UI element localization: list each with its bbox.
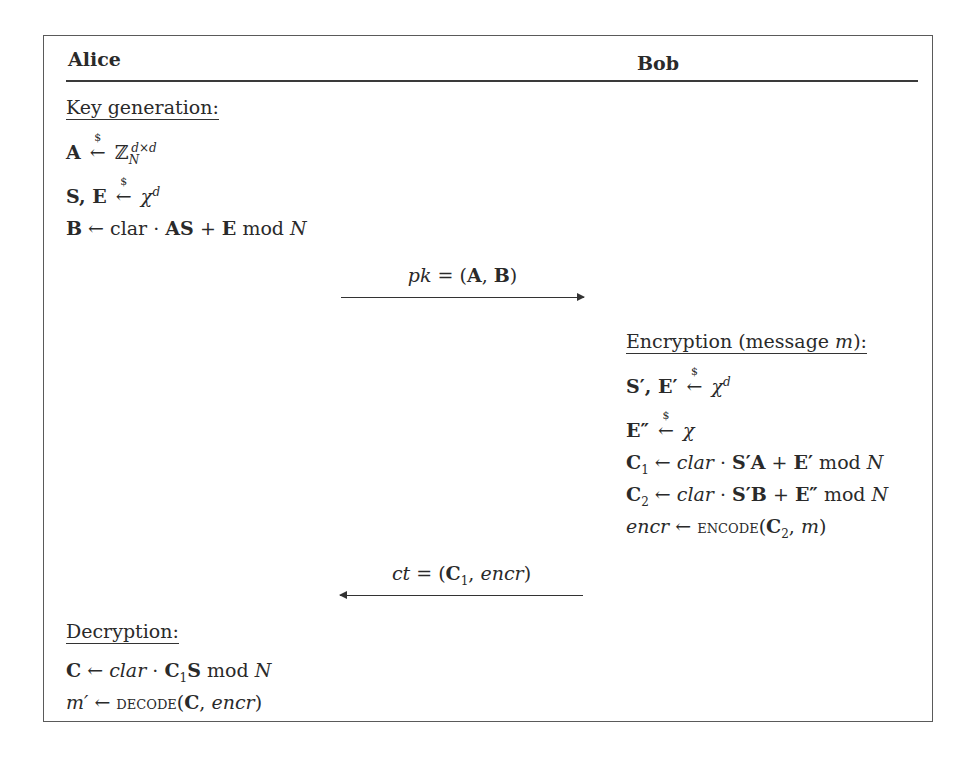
sample-arrow-icon: $← — [684, 374, 706, 398]
arrow-right-icon — [341, 297, 584, 298]
pk-message-label: pk = (A, B) — [341, 264, 584, 286]
encrypt-line-1: S′, E′ $← χd — [626, 374, 731, 398]
sample-arrow-icon: $← — [655, 418, 677, 442]
decrypt-title: Decryption: — [66, 620, 179, 644]
arrow-left-icon — [340, 595, 583, 596]
ct-message-label: ct = (C1, encr) — [340, 562, 583, 584]
encrypt-line-5: encr ← encode(C2, m) — [626, 514, 826, 538]
encrypt-title: Encryption (message m): — [626, 330, 867, 354]
keygen-title: Key generation: — [66, 96, 219, 120]
encrypt-line-4: C2 ← clar · S′B + E″ mod N — [626, 482, 888, 506]
protocol-frame — [43, 35, 933, 722]
decrypt-line-1: C ← clar · C1S mod N — [66, 658, 271, 682]
sample-arrow-icon: $← — [87, 140, 109, 164]
encrypt-line-3: C1 ← clar · S′A + E′ mod N — [626, 450, 883, 474]
alice-header: Alice — [68, 48, 121, 70]
keygen-line-2: S, E $← χd — [66, 184, 160, 208]
header-rule — [66, 80, 918, 82]
sample-arrow-icon: $← — [113, 184, 135, 208]
bob-header: Bob — [637, 52, 679, 74]
keygen-line-3: B ← clar · AS + E mod N — [66, 216, 307, 240]
decrypt-line-2: m′ ← decode(C, encr) — [66, 690, 262, 714]
keygen-line-1: A $← ℤNd×d — [66, 140, 157, 164]
encrypt-line-2: E″ $← χ — [626, 418, 695, 442]
